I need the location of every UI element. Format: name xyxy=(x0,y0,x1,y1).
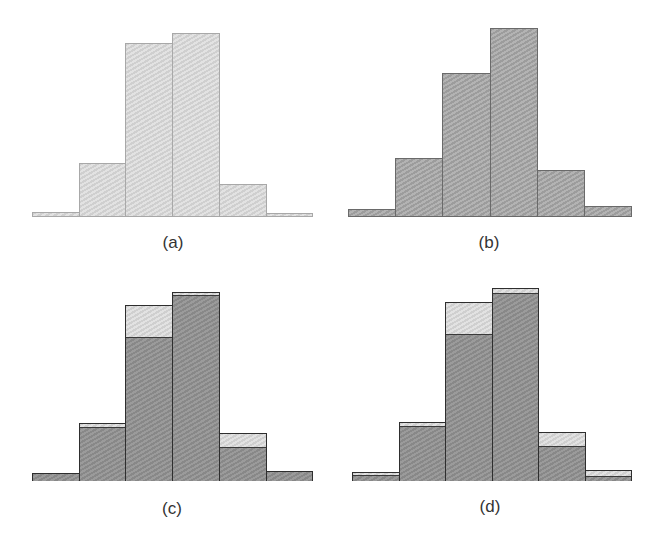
histogram-bar xyxy=(172,33,220,217)
histogram-bar-outline xyxy=(352,472,400,481)
histogram-bar xyxy=(442,73,491,217)
histogram-bar xyxy=(219,184,267,217)
histogram-bar-outline xyxy=(125,305,173,481)
panel-label-c: (c) xyxy=(142,499,202,519)
histogram-bar-outline xyxy=(266,471,313,481)
histogram-bar-outline xyxy=(538,432,586,481)
histogram-bar xyxy=(32,212,80,217)
histogram-bar-outline xyxy=(585,470,632,481)
panel-label-d: (d) xyxy=(460,497,520,517)
histogram-bar xyxy=(584,206,632,217)
histogram-bar-outline xyxy=(79,423,126,481)
histogram-bar xyxy=(125,43,173,217)
histogram-bar-outline xyxy=(399,422,446,481)
histogram-bar xyxy=(266,213,313,217)
panel-label-a: (a) xyxy=(143,233,203,253)
histogram-bar-outline xyxy=(32,473,80,481)
histogram-bar xyxy=(79,163,126,217)
panel-label-b: (b) xyxy=(459,233,519,253)
histogram-bar xyxy=(395,158,443,217)
histogram-bar xyxy=(348,209,396,217)
histogram-bar-outline xyxy=(492,288,539,481)
histogram-bar-outline xyxy=(445,302,493,481)
histogram-bar-outline xyxy=(219,433,267,481)
histogram-bar xyxy=(537,170,585,217)
histogram-bar-outline xyxy=(172,292,220,481)
histogram-bar xyxy=(490,28,538,217)
